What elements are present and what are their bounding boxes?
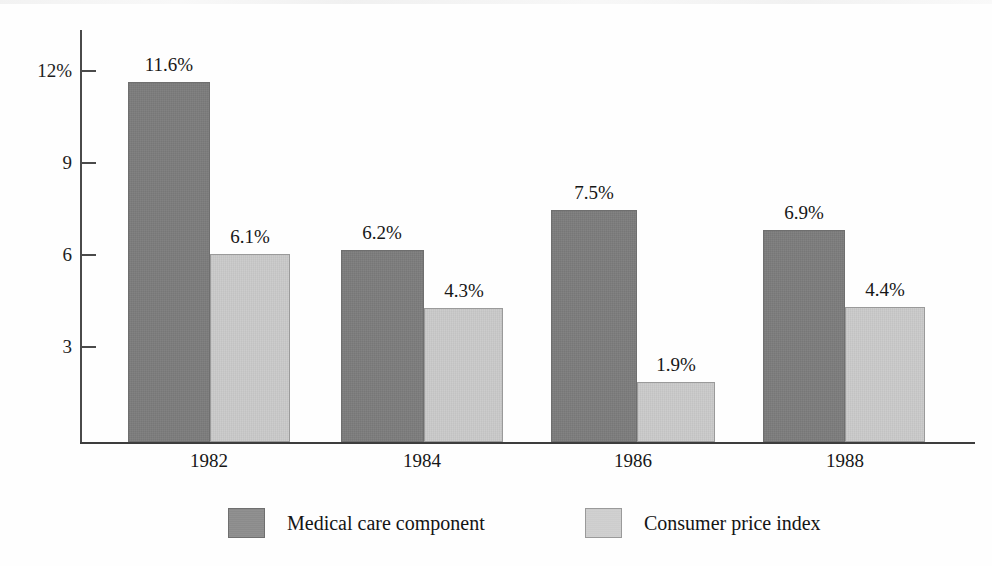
bar-cpi-1984[interactable] [424,308,503,442]
bar-cpi-1988[interactable] [845,307,925,442]
bar-value-cpi-1986: 1.9% [626,355,726,374]
legend-item-consumer-price-index[interactable]: Consumer price index [585,508,821,538]
legend-label-medical-care-component: Medical care component [287,513,485,533]
bar-value-medical-1984: 6.2% [332,223,432,242]
bar-value-cpi-1982: 6.1% [200,227,300,246]
bar-medical-1988[interactable] [763,230,845,442]
bar-value-cpi-1988: 4.4% [835,280,935,299]
legend-swatch-medical-care-component [228,508,265,538]
y-tick-label-12: 12% [12,61,72,80]
y-tick-label-6: 6 [12,245,72,264]
x-tick-label-1986: 1986 [583,450,683,472]
x-tick-label-1982: 1982 [159,450,259,472]
y-axis-line [80,30,82,444]
chart-legend: Medical care component Consumer price in… [0,503,992,543]
y-tick-12 [82,70,96,72]
bar-value-medical-1982: 11.6% [119,55,219,74]
bar-medical-1982[interactable] [128,82,210,442]
x-axis-line [80,442,975,444]
legend-label-consumer-price-index: Consumer price index [644,513,821,533]
bar-value-cpi-1984: 4.3% [414,281,514,300]
plot-area: 12% 9 6 3 11.6% 6.1% 1982 6.2% 4.3% 1984… [0,0,992,566]
bar-medical-1984[interactable] [341,250,424,442]
bar-cpi-1982[interactable] [210,254,290,442]
legend-swatch-consumer-price-index [585,508,622,538]
x-tick-label-1988: 1988 [795,450,895,472]
y-tick-label-9: 9 [12,153,72,172]
bar-cpi-1986[interactable] [637,382,715,442]
legend-item-medical-care-component[interactable]: Medical care component [228,508,485,538]
x-tick-label-1984: 1984 [372,450,472,472]
bar-value-medical-1988: 6.9% [754,203,854,222]
y-tick-label-3: 3 [12,337,72,356]
bar-chart: 12% 9 6 3 11.6% 6.1% 1982 6.2% 4.3% 1984… [0,0,992,566]
bar-medical-1986[interactable] [551,210,637,442]
y-tick-6 [82,254,96,256]
y-tick-9 [82,162,96,164]
bar-value-medical-1986: 7.5% [544,183,644,202]
y-tick-3 [82,346,96,348]
